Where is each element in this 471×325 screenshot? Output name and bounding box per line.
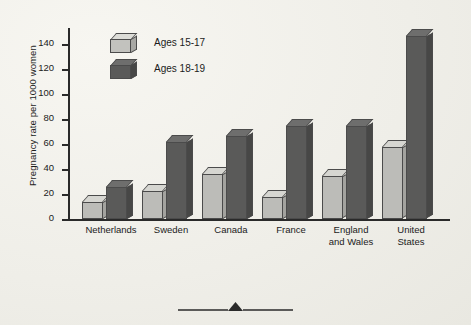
y-tick-0: 0 <box>62 219 68 221</box>
y-axis-line <box>68 28 70 220</box>
category-label-line1: United <box>363 224 459 236</box>
bar-front-face <box>82 202 103 219</box>
bar <box>382 147 403 218</box>
y-tick-40: 40 <box>62 169 68 171</box>
bar <box>82 202 103 219</box>
bar <box>166 142 187 218</box>
bar-side-face <box>127 183 133 218</box>
bar-side-face <box>187 139 193 219</box>
x-axis-category-label: UnitedStates <box>363 224 459 247</box>
bar-front-face <box>106 187 127 219</box>
bar <box>406 36 427 218</box>
bar-side-face <box>247 132 253 218</box>
y-tick-label-60: 60 <box>43 137 54 148</box>
y-tick-140: 140 <box>62 44 68 46</box>
y-tick-120: 120 <box>62 69 68 71</box>
y-tick-80: 80 <box>62 119 68 121</box>
bar <box>346 126 367 219</box>
bar-front-face <box>406 36 427 218</box>
bar-front-face <box>202 174 223 219</box>
bar-front-face <box>346 126 367 219</box>
light-cube-icon <box>110 33 134 53</box>
category-label-line2: States <box>363 236 459 248</box>
bar-front-face <box>166 142 187 218</box>
bar-front-face <box>382 147 403 218</box>
bar-side-face <box>307 122 313 218</box>
bar-group <box>142 27 200 219</box>
plot-area: 140 120 100 80 60 40 20 0 NetherlandsSwe… <box>68 28 438 220</box>
bar-group <box>382 27 440 219</box>
y-tick-label-80: 80 <box>43 112 54 123</box>
bar-side-face <box>427 33 433 219</box>
bar <box>142 191 163 219</box>
bar-group <box>82 27 140 219</box>
y-tick-label-40: 40 <box>43 162 54 173</box>
bar <box>262 197 283 219</box>
y-tick-60: 60 <box>62 144 68 146</box>
legend-label-ages-15-17: Ages 15-17 <box>154 37 205 48</box>
bar <box>106 187 127 219</box>
y-axis-title: Pregnancy rate per 1000 women <box>27 16 38 216</box>
y-tick-label-120: 120 <box>38 62 54 73</box>
y-tick-100: 100 <box>62 94 68 96</box>
y-tick-label-140: 140 <box>38 37 54 48</box>
bar-front-face <box>262 197 283 219</box>
bar-front-face <box>286 126 307 219</box>
bar-group <box>322 27 380 219</box>
bar <box>202 174 223 219</box>
bar-group <box>202 27 260 219</box>
dark-cube-icon <box>110 59 134 79</box>
bar <box>286 126 307 219</box>
bar-front-face <box>142 191 163 219</box>
y-tick-label-100: 100 <box>38 87 54 98</box>
bar-group <box>262 27 320 219</box>
x-axis-line <box>68 219 450 221</box>
bar-front-face <box>322 176 343 218</box>
bar-front-face <box>226 136 247 219</box>
chart-page: Pregnancy rate per 1000 women 140 120 10… <box>0 0 471 325</box>
y-tick-label-20: 20 <box>43 187 54 198</box>
y-tick-20: 20 <box>62 194 68 196</box>
bar <box>226 136 247 219</box>
legend-label-ages-18-19: Ages 18-19 <box>154 63 205 74</box>
bar-side-face <box>367 122 373 218</box>
bar <box>322 176 343 218</box>
y-tick-label-0: 0 <box>49 212 54 223</box>
triangle-divider-icon <box>0 298 471 318</box>
